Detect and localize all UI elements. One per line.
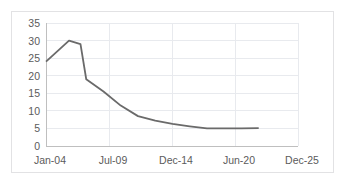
xtick-label-jun-20: Jun-20 <box>223 154 255 166</box>
ytick-label-20: 20 <box>28 70 40 82</box>
ytick-label-25: 25 <box>28 52 40 64</box>
xtick-label-dec-25: Dec-25 <box>285 154 319 166</box>
xtick-label-jan-04: Jan-04 <box>34 154 66 166</box>
ytick-label-10: 10 <box>28 105 40 117</box>
xtick-label-dec-14: Dec-14 <box>159 154 193 166</box>
data-series-line <box>46 41 259 129</box>
xtick-label-jul-09: Jul-09 <box>99 154 128 166</box>
ytick-label-30: 30 <box>28 35 40 47</box>
chart-container: 35 30 25 20 15 10 5 0 Jan-04 Jul-09 Dec-… <box>11 11 334 173</box>
y-axis-tick-labels: 35 30 25 20 15 10 5 0 <box>28 17 40 152</box>
ytick-label-35: 35 <box>28 17 40 29</box>
ytick-label-5: 5 <box>34 122 40 134</box>
ytick-label-15: 15 <box>28 87 40 99</box>
line-chart: 35 30 25 20 15 10 5 0 Jan-04 Jul-09 Dec-… <box>12 12 333 172</box>
ytick-label-0: 0 <box>34 140 40 152</box>
x-axis-tick-labels: Jan-04 Jul-09 Dec-14 Jun-20 Dec-25 <box>34 154 319 166</box>
